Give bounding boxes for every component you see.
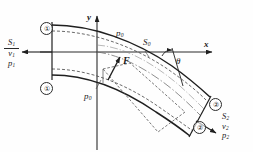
inlet-area-label: S1 [8,38,15,48]
inlet-pressure-label: p1 [8,59,15,69]
section-marker-inlet-upper: ① [40,22,53,35]
outlet-properties-group: S2 v2 p2 [222,112,229,141]
duct-centerline-upper [97,45,205,110]
section-marker-outlet-upper: ② [209,98,222,111]
ambient-pressure-lower-label: p0 [84,92,92,102]
ambient-pressure-upper-label: p0 [116,29,124,39]
pipe-bend-figure: y x ① ① ② ② S1 v1 p1 S2 v2 p2 p0 p0 [0,0,253,152]
section-marker-inlet-lower: ① [40,82,53,95]
force-vector-arrow [108,57,120,80]
outlet-pressure-label: p2 [222,131,229,141]
section-marker-outlet-lower: ② [193,121,206,134]
duct-lower-outer-wall [52,75,190,136]
y-axis-label: y [87,13,91,22]
inlet-properties-group: S1 v1 p1 [4,38,19,68]
force-label: F [123,56,130,66]
duct-upper-outer-wall [52,25,210,97]
duct-centerline [97,52,200,115]
theta-arc [162,50,172,56]
diagram-canvas [0,0,253,152]
reference-area-label: S0 [143,38,151,48]
theta-label: θ [176,57,180,66]
x-axis-label: x [204,40,209,49]
